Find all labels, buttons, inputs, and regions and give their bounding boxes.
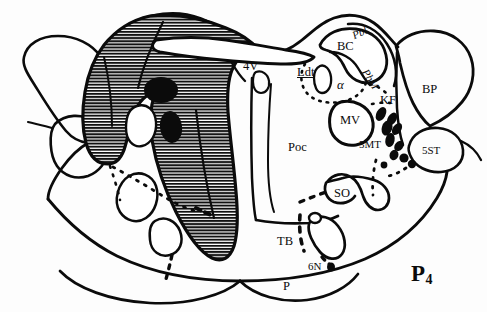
label-6n: 6N <box>308 261 321 272</box>
trigeminal-motor-tract-fascicles <box>373 105 416 168</box>
label-bp: BP <box>422 83 437 96</box>
label-4v: 4V <box>243 60 258 73</box>
island-upper-left <box>126 105 156 146</box>
label-poc: Poc <box>288 141 307 154</box>
pyramid-left-outline <box>60 271 240 303</box>
label-5mt: 5MT <box>359 139 381 150</box>
midline-teardrop <box>253 71 269 93</box>
label-so: SO <box>334 187 350 200</box>
left-lobe-notch-line <box>28 122 52 128</box>
alpha-teardrop <box>314 66 331 93</box>
fascicle-dot <box>373 105 388 123</box>
label-kf: KF <box>380 94 396 107</box>
paramedian-line-right <box>268 84 274 212</box>
ventral-dashed-right <box>300 191 329 202</box>
label-tb: TB <box>277 235 293 248</box>
label-ldt: Ldt <box>297 66 314 79</box>
plate-number: P4 <box>411 262 432 285</box>
fascicle-dot <box>381 162 388 169</box>
plate-subscript: 4 <box>426 272 433 287</box>
right-lateral-lobe-bp <box>396 31 473 126</box>
abducens-small-circle <box>309 213 321 223</box>
label-mv: MV <box>340 114 360 127</box>
5st-dotted-medial <box>388 168 406 176</box>
abducens-dashed-border <box>300 215 304 251</box>
label-alpha: α <box>337 78 344 91</box>
plate-letter: P <box>411 261 425 286</box>
abducens-nerve-marker <box>327 263 335 272</box>
brainstem-section-figure: 4V Ldt BC Pbl PbM α KF BP MV 5MT 5ST Poc… <box>0 0 487 312</box>
fascicle-dot <box>408 160 416 168</box>
black-blob-dorsal <box>144 77 178 103</box>
island-lower-left <box>150 219 182 256</box>
paramedian-line-left <box>251 78 256 220</box>
ventral-contour-upper-left <box>48 143 88 199</box>
label-5st: 5ST <box>422 145 440 156</box>
label-p: P <box>283 280 290 293</box>
fascicle-dot <box>399 153 408 162</box>
label-bc: BC <box>337 40 354 53</box>
